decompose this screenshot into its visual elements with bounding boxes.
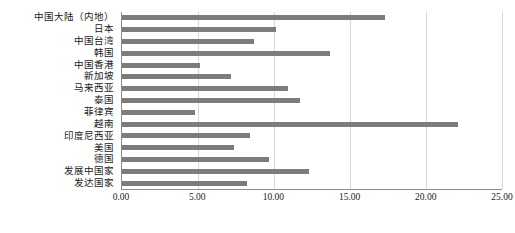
- category-label: 中国大陆（内地）: [0, 12, 118, 24]
- bar-row: [122, 142, 502, 154]
- x-tick-label: 25.00: [491, 193, 512, 203]
- bar: [122, 133, 250, 138]
- bar: [122, 51, 330, 56]
- x-tick-label: 20.00: [415, 193, 436, 203]
- category-label: 中国台湾: [0, 36, 118, 48]
- bar-row: [122, 83, 502, 95]
- bar: [122, 74, 231, 79]
- category-label: 德国: [0, 154, 118, 166]
- x-tick-label: 0.00: [113, 193, 130, 203]
- category-label: 印度尼西亚: [0, 131, 118, 143]
- bar: [122, 145, 234, 150]
- bar-series: [122, 12, 502, 189]
- bar: [122, 122, 458, 127]
- plot-area: [121, 12, 502, 190]
- bar: [122, 39, 254, 44]
- category-axis-labels: 中国大陆（内地）日本中国台湾韩国中国香港新加坡马来西亚泰国菲律宾越南印度尼西亚美…: [0, 12, 118, 190]
- bar-row: [122, 106, 502, 118]
- bar: [122, 157, 269, 162]
- category-label: 菲律宾: [0, 107, 118, 119]
- x-tick-label: 10.00: [263, 193, 284, 203]
- category-label: 发达国家: [0, 178, 118, 190]
- x-tick-label: 15.00: [339, 193, 360, 203]
- bar-row: [122, 177, 502, 189]
- category-label: 泰国: [0, 95, 118, 107]
- bar-row: [122, 130, 502, 142]
- bar: [122, 63, 200, 68]
- bar: [122, 110, 195, 115]
- bar-chart: 中国大陆（内地）日本中国台湾韩国中国香港新加坡马来西亚泰国菲律宾越南印度尼西亚美…: [0, 0, 515, 233]
- bar-row: [122, 154, 502, 166]
- category-label: 韩国: [0, 48, 118, 60]
- bar-row: [122, 95, 502, 107]
- bar: [122, 15, 385, 20]
- category-label: 中国香港: [0, 59, 118, 71]
- category-label: 马来西亚: [0, 83, 118, 95]
- bar-row: [122, 71, 502, 83]
- x-tick-label: 5.00: [189, 193, 206, 203]
- category-label: 日本: [0, 24, 118, 36]
- category-label: 新加坡: [0, 71, 118, 83]
- category-label: 越南: [0, 119, 118, 131]
- bar: [122, 86, 288, 91]
- bar-row: [122, 59, 502, 71]
- bar: [122, 169, 309, 174]
- category-label: 美国: [0, 142, 118, 154]
- bar-row: [122, 24, 502, 36]
- bar-row: [122, 47, 502, 59]
- bar-row: [122, 12, 502, 24]
- bar-row: [122, 118, 502, 130]
- gridline: [502, 12, 503, 189]
- bar-row: [122, 165, 502, 177]
- bar-row: [122, 36, 502, 48]
- bar: [122, 98, 300, 103]
- bar: [122, 27, 276, 32]
- value-axis-labels: 0.005.0010.0015.0020.0025.00: [121, 193, 502, 209]
- bar: [122, 181, 247, 186]
- category-label: 发展中国家: [0, 166, 118, 178]
